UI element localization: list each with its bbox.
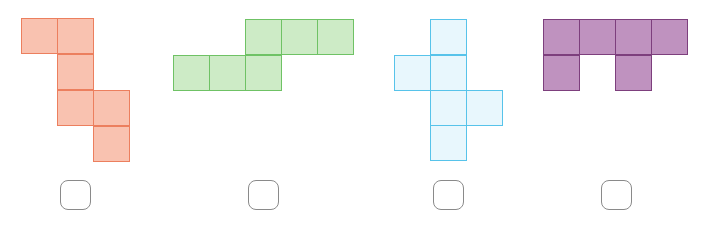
net-square [615, 19, 652, 55]
net-square [21, 18, 58, 54]
net-square [615, 55, 652, 91]
net-square [430, 19, 467, 55]
net-square [281, 19, 318, 55]
net-square [245, 19, 282, 55]
net-square [209, 55, 246, 91]
net-square [466, 90, 503, 126]
net-square [543, 19, 580, 55]
net-square [93, 126, 130, 162]
net-square [57, 54, 94, 90]
answer-checkbox-3[interactable] [433, 180, 464, 210]
net-square [430, 90, 467, 126]
net-square [394, 55, 431, 91]
net-square [430, 55, 467, 91]
net-square [579, 19, 616, 55]
net-square [430, 125, 467, 161]
net-square [57, 90, 94, 126]
net-square [317, 19, 354, 55]
net-square [93, 90, 130, 126]
answer-checkbox-4[interactable] [601, 180, 632, 210]
net-square [173, 55, 210, 91]
answer-checkbox-2[interactable] [248, 180, 279, 210]
net-square [651, 19, 688, 55]
net-square [543, 55, 580, 91]
answer-checkbox-1[interactable] [60, 180, 91, 210]
net-square [57, 18, 94, 54]
net-square [245, 55, 282, 91]
